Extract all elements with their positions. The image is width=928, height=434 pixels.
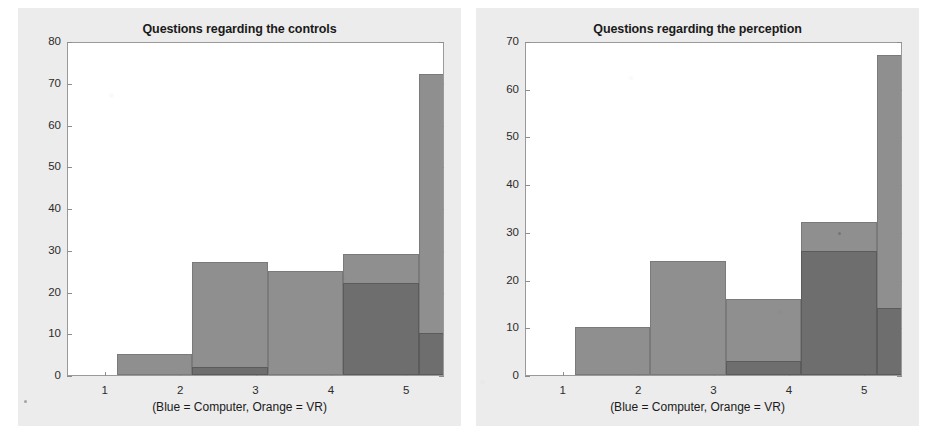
bar-computer-2 [192, 367, 267, 375]
ytick-mark [525, 376, 530, 377]
ytick-label: 10 [506, 322, 519, 334]
ytick-label: 80 [48, 36, 61, 48]
xtick-label: 2 [177, 385, 183, 397]
ytick-label: 30 [506, 227, 519, 239]
bar-computer-4 [801, 251, 876, 375]
ytick-mark [439, 42, 444, 43]
ytick-label: 70 [48, 78, 61, 90]
xtick-mark [563, 372, 564, 376]
ytick-mark [525, 233, 530, 234]
ytick-mark [67, 293, 72, 294]
bar-computer-5 [419, 333, 444, 375]
ytick-mark [525, 281, 530, 282]
xtick-label: 1 [559, 385, 565, 397]
ytick-mark [67, 126, 72, 127]
ytick-mark [67, 167, 72, 168]
ytick-mark [897, 376, 902, 377]
ytick-mark [897, 42, 902, 43]
ytick-mark [67, 251, 72, 252]
bar-vr-1 [575, 327, 650, 375]
scan-speck [838, 232, 841, 235]
xtick-label: 4 [786, 385, 792, 397]
bar-computer-3 [726, 361, 801, 375]
ytick-label: 40 [506, 179, 519, 191]
xtick-label: 2 [635, 385, 641, 397]
chart-panel-perception: Questions regarding the perception 01020… [476, 8, 919, 426]
bar-computer-5 [877, 308, 902, 375]
xtick-label: 3 [252, 385, 258, 397]
ytick-mark [67, 334, 72, 335]
ytick-label: 20 [48, 287, 61, 299]
ytick-mark [67, 376, 72, 377]
scan-speck [24, 400, 27, 403]
xtick-label: 1 [101, 385, 107, 397]
ytick-label: 60 [48, 120, 61, 132]
ytick-label: 10 [48, 328, 61, 340]
ytick-mark [67, 84, 72, 85]
plot-area-controls [67, 42, 444, 376]
ytick-label: 60 [506, 84, 519, 96]
ytick-mark [67, 42, 72, 43]
ytick-label: 40 [48, 203, 61, 215]
xaxis-label-controls: (Blue = Computer, Orange = VR) [18, 400, 461, 414]
ytick-label: 50 [48, 161, 61, 173]
chart-title-controls: Questions regarding the controls [18, 22, 461, 36]
plot-area-perception [525, 42, 902, 376]
figure-page: Questions regarding the controls 0102030… [0, 0, 928, 434]
bar-vr-5 [419, 74, 444, 375]
xtick-label: 5 [861, 385, 867, 397]
xtick-label: 4 [328, 385, 334, 397]
ytick-label: 50 [506, 131, 519, 143]
ytick-mark [525, 328, 530, 329]
ytick-label: 0 [513, 370, 519, 382]
chart-panel-controls: Questions regarding the controls 0102030… [18, 8, 461, 426]
ytick-mark [439, 376, 444, 377]
ytick-label: 70 [506, 36, 519, 48]
ytick-label: 20 [506, 275, 519, 287]
chart-title-perception: Questions regarding the perception [476, 22, 919, 36]
ytick-mark [525, 137, 530, 138]
ytick-label: 0 [55, 370, 61, 382]
xtick-label: 5 [403, 385, 409, 397]
xtick-label: 3 [710, 385, 716, 397]
ytick-label: 30 [48, 245, 61, 257]
ytick-mark [67, 209, 72, 210]
ytick-mark [525, 90, 530, 91]
bar-vr-1 [117, 354, 192, 375]
ytick-mark [525, 185, 530, 186]
xaxis-label-perception: (Blue = Computer, Orange = VR) [476, 400, 919, 414]
bar-vr-2 [650, 261, 725, 376]
xtick-mark [105, 372, 106, 376]
ytick-mark [525, 42, 530, 43]
bar-vr-3 [268, 271, 343, 375]
bar-vr-2 [192, 262, 267, 375]
bar-computer-4 [343, 283, 418, 375]
